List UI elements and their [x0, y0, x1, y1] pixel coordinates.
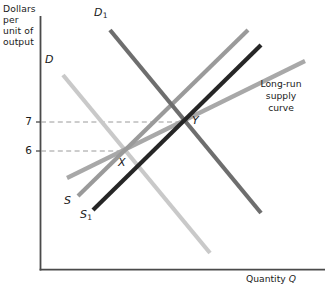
x-axis-title-text: Quantity	[246, 273, 289, 284]
curve-label-supply-shifted: S1	[80, 209, 92, 222]
curve-label-demand-shifted-subscript: 1	[103, 11, 108, 20]
supply-curve-S	[78, 30, 248, 196]
x-axis-title: Quantity Q	[246, 274, 296, 285]
curve-label-supply: S	[64, 195, 71, 208]
curve-label-demand-shifted-base: D	[94, 6, 102, 19]
curve-label-demand: D	[45, 54, 53, 67]
curve-label-demand-shifted: D1	[94, 7, 107, 20]
curve-label-supply-shifted-base: S	[80, 208, 87, 221]
x-axis-title-symbol: Q	[289, 273, 296, 284]
curve-label-supply-shifted-subscript: 1	[87, 213, 92, 222]
y-axis-title: Dollars per unit of output	[3, 4, 55, 47]
y-tick-label-7: 7	[14, 115, 32, 127]
axis-lines	[40, 16, 325, 271]
curves	[63, 30, 305, 253]
long-run-supply-curve-annotation: Long-run supply curve	[246, 78, 316, 114]
equilibrium-point-label-y: Y	[192, 115, 199, 128]
equilibrium-point-label-x: X	[118, 157, 126, 170]
supply-demand-figure: Dollars per unit of output Quantity Q 7 …	[0, 0, 331, 294]
demand-curve-D	[63, 75, 210, 253]
y-tick-label-6: 6	[14, 144, 32, 156]
